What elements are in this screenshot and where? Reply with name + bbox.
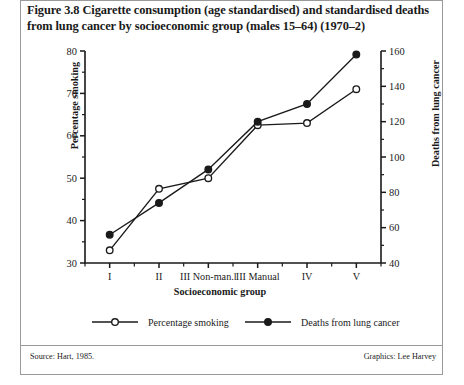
- legend-group: Percentage smokingDeaths from lung cance…: [92, 317, 400, 328]
- svg-text:30: 30: [67, 258, 77, 269]
- graphics-credit: Graphics: Lee Harvey: [364, 352, 436, 361]
- svg-text:I: I: [108, 271, 112, 282]
- svg-text:140: 140: [389, 81, 405, 92]
- axes-group: 304050607080406080100120140160IIIIII Non…: [67, 46, 405, 282]
- svg-text:V: V: [353, 271, 361, 282]
- right-axis-title: Deaths from lung cancer: [430, 34, 441, 194]
- svg-text:40: 40: [67, 215, 77, 226]
- legend-label: Percentage smoking: [148, 317, 229, 328]
- series-group: [106, 51, 359, 253]
- svg-text:80: 80: [389, 187, 399, 198]
- svg-text:III Non-man.l: III Non-man.l: [180, 271, 237, 282]
- svg-text:II: II: [156, 271, 163, 282]
- left-axis-title: Percentage smoking: [69, 26, 80, 186]
- svg-text:60: 60: [389, 222, 399, 233]
- chart-area: 304050607080406080100120140160IIIIII Non…: [0, 0, 464, 345]
- svg-text:100: 100: [389, 152, 405, 163]
- figure-panel: Figure 3.8 Cigarette consumption (age st…: [0, 0, 464, 385]
- source-note: Source: Hart, 1985.: [30, 352, 94, 361]
- svg-text:III Manual: III Manual: [236, 271, 280, 282]
- svg-text:40: 40: [389, 258, 399, 269]
- svg-text:IV: IV: [302, 271, 313, 282]
- svg-text:160: 160: [389, 46, 405, 57]
- footer-divider: [21, 345, 442, 346]
- x-axis-title: Socioeconomic group: [0, 286, 440, 297]
- svg-text:120: 120: [389, 116, 405, 127]
- legend-label: Deaths from lung cancer: [301, 317, 400, 328]
